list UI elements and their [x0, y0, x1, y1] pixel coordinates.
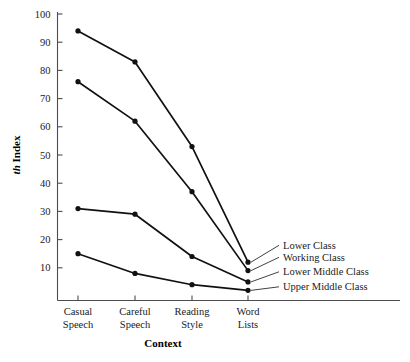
- series-labels-group: Lower ClassWorking ClassLower Middle Cla…: [251, 240, 369, 293]
- series-label-working-class: Working Class: [283, 252, 345, 263]
- data-point: [75, 206, 80, 211]
- data-point: [75, 251, 80, 256]
- data-point: [245, 288, 250, 293]
- x-tick-label: Reading: [175, 306, 211, 317]
- series-label-lower-middle-class: Lower Middle Class: [283, 266, 369, 277]
- x-tick-label: Speech: [63, 319, 94, 330]
- data-point: [245, 260, 250, 265]
- y-axis-title-variable: th: [10, 165, 22, 174]
- data-point: [189, 189, 194, 194]
- series-label-upper-middle-class: Upper Middle Class: [283, 281, 368, 292]
- y-tick-label: 60: [40, 121, 51, 132]
- legend-leader-line: [251, 287, 279, 291]
- data-point: [132, 212, 137, 217]
- series-label-lower-class: Lower Class: [283, 240, 336, 251]
- y-tick-label: 100: [35, 9, 51, 20]
- y-axis-title-word: Index: [10, 135, 22, 165]
- data-point: [132, 119, 137, 124]
- data-point: [189, 144, 194, 149]
- x-tick-label: Lists: [238, 319, 258, 330]
- data-point: [75, 28, 80, 33]
- data-point: [75, 79, 80, 84]
- y-tick-label: 40: [40, 178, 51, 189]
- x-axis: CasualSpeechCarefulSpeechReadingStyleWor…: [58, 296, 401, 330]
- x-tick-label: Casual: [64, 306, 93, 317]
- th-index-line-chart: 102030405060708090100 CasualSpeechCarefu…: [0, 0, 410, 362]
- x-tick-label: Careful: [119, 306, 151, 317]
- x-tick-label: Style: [181, 319, 203, 330]
- y-axis: 102030405060708090100: [35, 9, 63, 301]
- y-tick-label: 70: [40, 93, 51, 104]
- series-line-lower-middle-class: [78, 209, 248, 282]
- series-line-working-class: [78, 82, 248, 271]
- series-line-lower-class: [78, 31, 248, 262]
- data-point: [132, 59, 137, 64]
- y-tick-label: 30: [40, 206, 51, 217]
- series-line-upper-middle-class: [78, 254, 248, 291]
- x-axis-title: Context: [144, 337, 182, 349]
- data-point: [245, 268, 250, 273]
- x-tick-label: Speech: [120, 319, 151, 330]
- y-tick-label: 50: [40, 150, 51, 161]
- chart-container: 102030405060708090100 CasualSpeechCarefu…: [0, 0, 410, 362]
- y-tick-label: 20: [40, 234, 51, 245]
- x-tick-label: Word: [236, 306, 260, 317]
- y-tick-label: 90: [40, 37, 51, 48]
- axis-titles: Contextth Index: [10, 135, 182, 349]
- data-point: [245, 279, 250, 284]
- data-point: [189, 254, 194, 259]
- y-tick-label: 80: [40, 65, 51, 76]
- data-series-group: [75, 28, 250, 293]
- y-axis-title: th Index: [10, 135, 22, 174]
- data-point: [132, 271, 137, 276]
- data-point: [189, 282, 194, 287]
- legend-leader-line: [251, 272, 279, 282]
- y-tick-label: 10: [40, 262, 51, 273]
